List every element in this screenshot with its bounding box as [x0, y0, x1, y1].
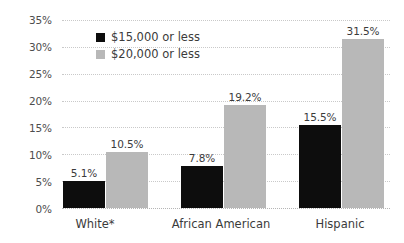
- y-axis-tick-label: 10%: [0, 150, 52, 160]
- bar-hispanic-20000: [342, 39, 384, 208]
- x-axis-label-african-american: African American: [161, 218, 281, 230]
- bar-african-american-20000: [224, 105, 266, 208]
- y-axis-tick-label: 0%: [0, 204, 52, 214]
- bar-value-label: 7.8%: [181, 153, 223, 164]
- bar-value-label: 31.5%: [340, 26, 386, 37]
- bar-white-15000: [63, 181, 105, 208]
- bar-chart: 35% 30% 25% 20% 15% 10% 5% 0% 5.1% 10.5%…: [0, 0, 404, 243]
- legend-swatch-icon: [96, 33, 105, 42]
- gridline-25: [62, 74, 390, 75]
- x-axis-label-hispanic: Hispanic: [290, 218, 390, 230]
- legend-label: $20,000 or less: [111, 48, 200, 61]
- bar-white-20000: [106, 152, 148, 208]
- bar-value-label: 10.5%: [106, 139, 148, 150]
- bar-value-label: 5.1%: [63, 168, 105, 179]
- legend-label: $15,000 or less: [111, 31, 200, 44]
- y-axis-tick-label: 15%: [0, 123, 52, 133]
- legend-swatch-icon: [96, 50, 105, 59]
- y-axis-tick-label: 5%: [0, 177, 52, 187]
- y-axis-tick-label: 35%: [0, 15, 52, 25]
- y-axis-tick-label: 25%: [0, 69, 52, 79]
- bar-value-label: 19.2%: [224, 92, 266, 103]
- bar-hispanic-15000: [299, 125, 341, 208]
- y-axis-tick-label: 20%: [0, 96, 52, 106]
- bar-african-american-15000: [181, 166, 223, 208]
- gridline-35: [62, 20, 390, 21]
- bar-value-label: 15.5%: [297, 112, 343, 123]
- x-axis-label-white: White*: [41, 218, 149, 230]
- gridline-0: [62, 208, 390, 209]
- y-axis-tick-label: 30%: [0, 42, 52, 52]
